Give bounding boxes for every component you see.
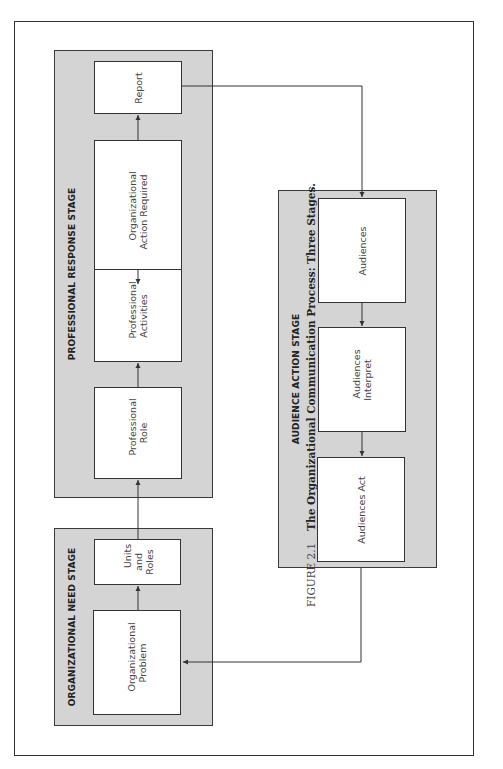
figure-caption: FIGURE 2.1The Organizational Communicati… bbox=[305, 182, 503, 606]
figure-caption-container: FIGURE 2.1The Organizational Communicati… bbox=[482, 20, 502, 769]
arrow-report-to-audiences bbox=[182, 86, 362, 197]
figure-number: FIGURE 2.1 bbox=[305, 542, 317, 606]
figure-title: The Organizational Communication Process… bbox=[305, 182, 317, 530]
